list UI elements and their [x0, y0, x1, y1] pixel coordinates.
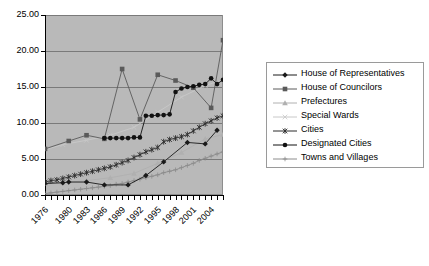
- legend-sample-circle-icon: [272, 137, 298, 149]
- legend-label: House of Councilors: [298, 83, 382, 92]
- legend-sample-asterisk-icon: [272, 123, 298, 135]
- legend-item[interactable]: Designated Cities: [267, 136, 423, 150]
- legend-sample-square-icon: [272, 81, 298, 93]
- legend-label: Special Wards: [298, 111, 359, 120]
- legend-item[interactable]: Cities: [267, 122, 423, 136]
- legend-label: Cities: [298, 125, 324, 134]
- legend-item[interactable]: House of Representatives: [267, 66, 423, 80]
- legend-sample-diamond-icon: [272, 67, 298, 79]
- legend-sample-plus-icon: [272, 151, 298, 163]
- chart-legend: House of RepresentativesHouse of Council…: [266, 62, 424, 168]
- legend-label: House of Representatives: [298, 69, 405, 78]
- chart-figure: 0.005.0010.0015.0020.0025.00 19761980198…: [0, 0, 429, 266]
- legend-label: Towns and Villages: [298, 153, 378, 162]
- legend-item[interactable]: Towns and Villages: [267, 150, 423, 164]
- legend-sample-triangle-icon: [272, 95, 298, 107]
- legend-item[interactable]: Prefectures: [267, 94, 423, 108]
- legend-label: Designated Cities: [298, 139, 372, 148]
- legend-item[interactable]: Special Wards: [267, 108, 423, 122]
- legend-sample-x-thin-icon: [272, 109, 298, 121]
- legend-item[interactable]: House of Councilors: [267, 80, 423, 94]
- series-house-of-councilors: [43, 38, 226, 151]
- legend-label: Prefectures: [298, 97, 347, 106]
